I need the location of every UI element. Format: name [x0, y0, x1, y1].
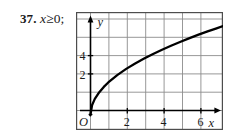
x-tick-label-4: 4: [161, 115, 167, 129]
problem-terminator: ;: [61, 11, 65, 26]
x-tick-label-6: 6: [197, 115, 203, 129]
y-tick-label-4: 4: [80, 49, 86, 63]
origin-label: O: [79, 115, 88, 129]
x-tick-label-2: 2: [124, 115, 130, 129]
y-axis-label: y: [96, 15, 104, 29]
problem-value: 0: [54, 11, 61, 26]
y-tick-label-2: 2: [80, 68, 86, 82]
graph-svg: y x O 4 2 2 4 6: [76, 12, 223, 130]
problem-number: 37.: [20, 11, 37, 26]
problem-operator: ≥: [46, 11, 54, 26]
x-axis-label: x: [208, 116, 215, 130]
problem-expression: x≥0;: [37, 11, 65, 26]
figure-container: 37. x≥0;: [0, 0, 229, 133]
graph-plot-area: y x O 4 2 2 4 6: [76, 12, 223, 130]
problem-label: 37. x≥0;: [20, 11, 64, 27]
